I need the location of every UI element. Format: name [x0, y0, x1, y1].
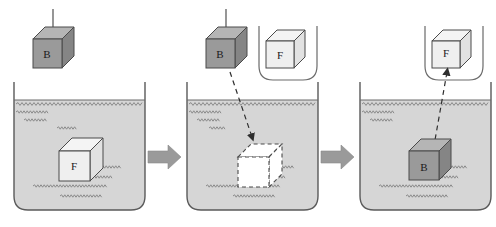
block-f-1-label: F: [71, 160, 77, 172]
figure-canvas: B F: [0, 0, 496, 227]
block-b-1-label: B: [43, 48, 50, 60]
block-b-2-label: B: [216, 48, 223, 60]
block-f-3-label: F: [443, 47, 449, 59]
dashed-cube-2: [238, 144, 282, 187]
block-b-2: B: [206, 27, 247, 68]
block-f-3: F: [432, 30, 471, 68]
dashed-cube-2-front-face: [238, 157, 269, 187]
block-b-3: B: [409, 139, 451, 180]
block-f-1: F: [59, 138, 103, 181]
block-f-2-label: F: [277, 49, 283, 61]
buoyancy-sequence-diagram: B F: [0, 0, 496, 227]
block-f-2: F: [266, 30, 305, 68]
block-b-1: B: [33, 27, 74, 68]
block-b-3-label: B: [420, 161, 427, 173]
